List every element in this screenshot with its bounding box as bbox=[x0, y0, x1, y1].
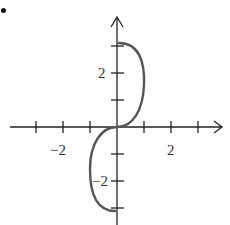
x-tick-label-neg2: −2 bbox=[50, 142, 66, 158]
x-tick-label-2: 2 bbox=[167, 142, 175, 158]
y-axis bbox=[111, 17, 124, 225]
y-tick-label-neg2: −2 bbox=[92, 173, 108, 189]
graph: −2 2 2 −2 bbox=[0, 0, 230, 225]
y-tick-label-2: 2 bbox=[98, 65, 106, 81]
